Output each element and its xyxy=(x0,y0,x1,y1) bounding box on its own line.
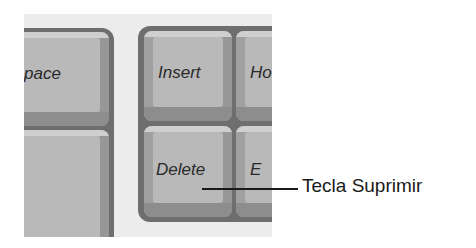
key-bevel xyxy=(144,203,232,217)
key-label-space: pace xyxy=(24,64,61,84)
key-large xyxy=(24,130,109,237)
callout-label: Tecla Suprimir xyxy=(302,175,422,197)
callout-leader-line xyxy=(202,188,298,190)
key-label-end: E xyxy=(250,160,261,180)
key-bevel xyxy=(24,112,109,126)
key-label-home: Ho xyxy=(250,63,272,83)
key-bevel xyxy=(100,130,109,237)
key-bevel xyxy=(236,203,272,217)
key-delete: Delete xyxy=(144,126,232,217)
key-space: pace xyxy=(24,32,109,126)
keycap-surface xyxy=(24,136,100,237)
key-insert: Insert xyxy=(144,31,232,121)
keyboard-illustration: pace Insert Ho Delete E xyxy=(24,14,272,237)
key-bevel xyxy=(236,107,272,121)
key-label-delete: Delete xyxy=(156,160,205,180)
key-end: E xyxy=(236,126,272,217)
key-label-insert: Insert xyxy=(158,63,201,83)
key-home: Ho xyxy=(236,31,272,121)
key-bevel xyxy=(144,107,232,121)
